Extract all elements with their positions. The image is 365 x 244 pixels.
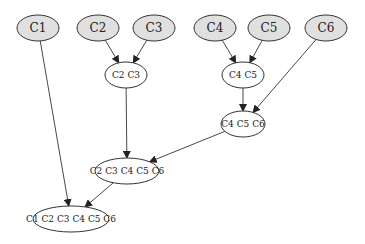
node-label: C1 C2 C3 C4 C5 C6 <box>26 214 116 224</box>
node-c1-c2-c3-c4-c5-c6: C1 C2 C3 C4 C5 C6 <box>26 206 116 232</box>
node-c4-c5: C4 C5 <box>222 62 264 88</box>
node-c2-c3: C2 C3 <box>105 62 147 88</box>
node-label: C5 <box>261 21 278 35</box>
node-label: C1 <box>30 21 47 35</box>
node-c4: C4 <box>194 15 236 41</box>
nodes-layer: C1C2C3C4C5C6C2 C3C4 C5C4 C5 C6C2 C3 C4 C… <box>17 15 347 232</box>
node-label: C4 C5 <box>229 70 257 80</box>
edges-layer <box>40 39 316 206</box>
edge-n456-to-n23456 <box>150 131 225 161</box>
node-label: C4 C5 C6 <box>221 119 265 129</box>
node-c6: C6 <box>305 15 347 41</box>
edge-n23456-to-n123456 <box>85 183 113 207</box>
edge-n5-to-n45 <box>250 40 262 62</box>
node-label: C3 <box>146 21 163 35</box>
node-c2: C2 <box>77 15 119 41</box>
node-c2-c3-c4-c5-c6: C2 C3 C4 C5 C6 <box>90 158 165 184</box>
edge-n2-to-n23 <box>105 40 118 63</box>
node-c1: C1 <box>17 15 59 41</box>
node-label: C6 <box>318 21 335 35</box>
cluster-merge-diagram: C1C2C3C4C5C6C2 C3C4 C5C4 C5 C6C2 C3 C4 C… <box>0 0 365 244</box>
node-label: C2 <box>90 21 107 35</box>
node-label: C2 C3 <box>112 70 140 80</box>
node-label: C2 C3 C4 C5 C6 <box>90 166 165 176</box>
edge-n23-to-n23456 <box>126 88 127 158</box>
node-c3: C3 <box>133 15 175 41</box>
node-label: C4 <box>207 21 224 35</box>
edge-n4-to-n45 <box>222 40 235 63</box>
edge-n1-to-n123456 <box>40 41 69 206</box>
node-c4-c5-c6: C4 C5 C6 <box>221 111 265 137</box>
node-c5: C5 <box>248 15 290 41</box>
edge-n3-to-n23 <box>133 40 146 63</box>
